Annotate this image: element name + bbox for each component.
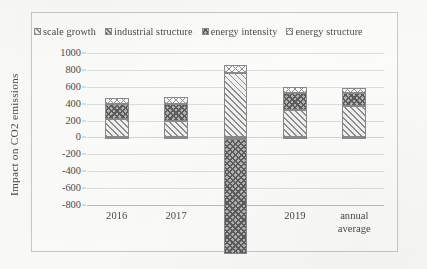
legend-label-scale-growth: scale growth: [43, 26, 96, 37]
bar-group[interactable]: [105, 53, 129, 205]
y-axis-tick-mark: [82, 137, 86, 138]
x-axis-label: annualaverage: [325, 210, 384, 235]
bar-group[interactable]: [224, 53, 248, 205]
bar-segment[interactable]: [164, 104, 188, 121]
bar-series-group: [87, 53, 384, 205]
bar-segment[interactable]: [105, 137, 129, 139]
x-axis-label-line: 2016: [87, 210, 146, 223]
legend-swatch-scale-growth-icon: [34, 28, 41, 35]
y-axis-title: Impact on CO2 emissions: [6, 50, 22, 220]
x-axis-label-line: average: [325, 223, 384, 236]
bar-group[interactable]: [164, 53, 188, 205]
y-axis-tick-mark: [82, 86, 86, 87]
y-axis-tick-mark: [82, 69, 86, 70]
legend-item-industrial-structure[interactable]: industrial structure: [105, 26, 193, 37]
bar-segment[interactable]: [342, 106, 366, 138]
bar-segment[interactable]: [224, 139, 248, 254]
bar-segment[interactable]: [224, 65, 248, 73]
chart-page: scale growth industrial structure energy…: [0, 0, 427, 269]
y-axis-tick-mark: [82, 188, 86, 189]
y-axis-tick-label: 0: [76, 132, 81, 142]
y-axis-tick-label: -200: [62, 149, 81, 159]
bar-segment[interactable]: [164, 121, 188, 137]
y-axis-tick-label: -600: [62, 183, 81, 193]
y-axis-tick-label: -400: [62, 166, 81, 176]
legend-item-energy-structure[interactable]: energy structure: [286, 26, 362, 37]
y-axis-tick-label: 800: [65, 65, 81, 75]
legend-label-industrial-structure: industrial structure: [114, 26, 193, 37]
bar-segment[interactable]: [224, 137, 248, 139]
bar-segment[interactable]: [342, 93, 366, 106]
y-axis-tick-label: 400: [65, 98, 81, 108]
y-axis-tick-mark: [82, 103, 86, 104]
bar-segment[interactable]: [164, 137, 188, 139]
x-axis-label-line: 2019: [265, 210, 324, 223]
bar-group[interactable]: [283, 53, 307, 205]
x-axis-label: 2016: [87, 210, 146, 223]
bar-group[interactable]: [342, 53, 366, 205]
y-axis-tick-label: 200: [65, 115, 81, 125]
bar-segment[interactable]: [283, 110, 307, 138]
bar-segment[interactable]: [342, 137, 366, 139]
y-axis-tick-mark: [82, 154, 86, 155]
y-axis-tick-label: 1000: [60, 48, 81, 58]
y-axis-tick-mark: [82, 171, 86, 172]
x-axis-label-line: annual: [325, 210, 384, 223]
legend-swatch-industrial-structure-icon: [105, 28, 112, 35]
x-axis-label: 2017: [146, 210, 205, 223]
bar-segment[interactable]: [105, 119, 129, 137]
bar-segment[interactable]: [283, 137, 307, 139]
legend-item-energy-intensity[interactable]: energy intensity: [202, 26, 278, 37]
chart-legend: scale growth industrial structure energy…: [34, 26, 396, 37]
legend-swatch-energy-intensity-icon: [202, 28, 209, 35]
x-axis-label: 2019: [265, 210, 324, 223]
y-axis-tick-label: -800: [62, 200, 81, 210]
bar-segment[interactable]: [283, 87, 307, 94]
x-axis-label-line: 2017: [146, 210, 205, 223]
bar-segment[interactable]: [224, 73, 248, 137]
legend-item-scale-growth[interactable]: scale growth: [34, 26, 96, 37]
plot-area: 10008006004002000-200-400-600-800: [87, 53, 384, 205]
bar-segment[interactable]: [164, 97, 188, 104]
legend-label-energy-intensity: energy intensity: [211, 26, 278, 37]
legend-label-energy-structure: energy structure: [295, 26, 362, 37]
bar-segment[interactable]: [283, 93, 307, 109]
y-axis-tick-mark: [82, 53, 86, 54]
y-axis-tick-mark: [82, 120, 86, 121]
bar-segment[interactable]: [105, 104, 129, 120]
y-axis-tick-mark: [82, 205, 86, 206]
y-axis-tick-label: 600: [65, 82, 81, 92]
legend-swatch-energy-structure-icon: [286, 28, 293, 35]
